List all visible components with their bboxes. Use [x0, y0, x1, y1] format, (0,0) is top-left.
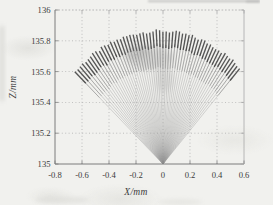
scanned-ray-trace-figure: -0.8-0.6-0.4-0.200.20.40.6135135.2135.41… — [0, 0, 260, 205]
x-tick-label: 0 — [161, 170, 165, 180]
ray-tip — [214, 53, 221, 67]
ray-tip — [172, 32, 173, 49]
scan-streak-top — [148, 0, 260, 2]
x-tick-label: -0.6 — [75, 170, 89, 180]
ray-tip — [186, 35, 189, 51]
y-axis-label: Z/mm — [8, 76, 18, 99]
ray-tip — [95, 51, 103, 65]
ray-tip — [101, 47, 109, 62]
ray-tip — [150, 33, 152, 49]
ray-mid-segment — [100, 65, 112, 84]
scan-smudge-bottom — [158, 199, 202, 205]
ray-mid-segment — [96, 70, 109, 88]
y-tick-label: 135.6 — [31, 67, 51, 77]
x-tick-label: 0.6 — [239, 170, 250, 180]
ray-mid-segment — [184, 48, 189, 71]
y-tick-label: 135.4 — [31, 97, 51, 107]
ray-mid-segment — [91, 74, 105, 92]
scan-bleed-cloud — [123, 45, 149, 59]
ray-mid-segment — [87, 79, 102, 96]
y-tick-label: 135.2 — [31, 128, 50, 138]
ray-mid-segment — [186, 51, 192, 73]
ray-mid-segment — [215, 74, 228, 92]
ray-mid-segment — [98, 68, 111, 87]
ray-tip — [110, 42, 117, 57]
ray-tip — [207, 47, 213, 62]
ray-tip — [209, 49, 216, 63]
scan-smudge-bottom — [34, 197, 90, 204]
ray-tip — [175, 31, 177, 48]
x-tick-label: 0.2 — [185, 170, 196, 180]
ray-tip — [183, 34, 186, 50]
ray-tip — [108, 45, 115, 60]
scan-smudge-left — [0, 26, 4, 101]
ray-mid-segment — [89, 77, 104, 94]
ray-mid-segment — [84, 81, 99, 97]
scan-bleed-cloud — [155, 66, 173, 92]
ray-tip — [218, 53, 226, 67]
ray-mid-segment — [210, 67, 221, 86]
ray-tip — [153, 31, 154, 48]
scan-streak-top-right — [246, 0, 260, 3]
y-tick-label: 135.8 — [31, 36, 50, 46]
x-tick-label: -0.4 — [102, 170, 116, 180]
ray-tip — [104, 46, 111, 61]
ray-mid-segment — [94, 73, 108, 91]
x-axis-label: X/mm — [26, 187, 246, 197]
ray-tip — [99, 51, 107, 65]
x-tick-label: -0.2 — [129, 170, 143, 180]
ray-tip — [212, 51, 219, 65]
ray-mid-segment — [106, 63, 117, 83]
ray-mid-segment — [218, 79, 231, 96]
ray-tip — [180, 34, 182, 50]
ray-mid-segment — [103, 63, 115, 83]
y-tick-label: 136 — [38, 5, 52, 15]
ray-tip — [169, 32, 170, 48]
ray-mid-segment — [175, 45, 178, 68]
ray-fan-plot: -0.8-0.6-0.4-0.200.20.40.6135135.2135.41… — [0, 0, 260, 205]
x-tick-label: -0.8 — [48, 170, 62, 180]
ray-mid-segment — [214, 71, 226, 89]
x-tick-label: 0.4 — [212, 170, 223, 180]
ray-tip — [178, 32, 180, 49]
ray-tip — [156, 29, 157, 46]
ray-mid-segment — [216, 77, 229, 94]
y-tick-label: 135 — [38, 159, 51, 169]
